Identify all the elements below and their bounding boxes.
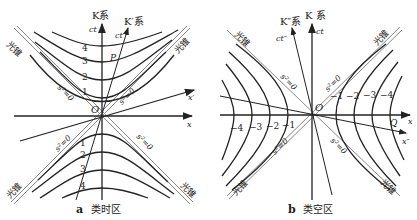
upper-curve-label-4: 4 — [82, 43, 88, 53]
x-double-prime-label: x″ — [402, 137, 410, 146]
origin-label: O — [91, 104, 99, 115]
caption-text-b: 类空区 — [303, 203, 333, 215]
null-label-lr: s²=0 — [329, 136, 349, 156]
panel-b-spacelike: K 系 K″系 ct ct″ x x″ O Q −1 −2 −3 −4 −4 −… — [220, 10, 413, 216]
upper-curve-label-1: 1 — [82, 87, 88, 97]
frame-k-label: K系 — [92, 10, 109, 21]
frame-k-label: K 系 — [305, 10, 326, 21]
caption-text-a: 类时区 — [91, 203, 121, 215]
ct-label: ct — [89, 25, 97, 34]
light-cone-label-lr: 光锥 — [379, 177, 400, 198]
caption-letter-b: b — [288, 203, 296, 216]
ct-double-prime-label: ct″ — [276, 34, 287, 43]
light-cone-label-ul: 光锥 — [233, 29, 254, 50]
right-curve-label-3: −3 — [363, 90, 377, 100]
left-curve-label-4: −4 — [230, 123, 244, 133]
x-label: x — [408, 117, 413, 126]
point-q-label: Q — [390, 118, 398, 128]
null-label-ll: s²=0 — [270, 137, 290, 157]
right-curve-label-4: −4 — [380, 90, 394, 100]
panel-a-timelike: K系 K′系 ct ct′ x x′ O P 1 2 3 4 1 2 3 4 s… — [4, 10, 199, 216]
point-p-label: P — [109, 53, 117, 63]
origin-label: O — [315, 102, 323, 113]
null-label-lr: s²=0 — [135, 132, 155, 152]
spacetime-diagram: K系 K′系 ct ct′ x x′ O P 1 2 3 4 1 2 3 4 s… — [0, 0, 417, 220]
upper-curve-label-2: 2 — [82, 72, 88, 82]
left-curve-label-3: −3 — [249, 122, 263, 132]
light-cone-label-lr: 光锥 — [179, 180, 200, 201]
frame-k-double-prime-label: K″系 — [280, 16, 301, 27]
caption-letter-a: a — [76, 203, 83, 216]
right-curve-label-1: −1 — [330, 91, 343, 101]
null-label-ur: s²=0 — [117, 87, 137, 107]
right-curve-label-2: −2 — [346, 91, 359, 101]
left-curve-label-1: −1 — [282, 120, 295, 130]
lower-curve-label-3: 3 — [80, 164, 86, 174]
light-cone-label-ul: 光锥 — [5, 39, 26, 60]
lower-curve-label-4: 4 — [80, 181, 86, 191]
upper-curve-label-3: 3 — [82, 56, 88, 66]
ct-label: ct — [316, 27, 324, 36]
ct-prime-label: ct′ — [115, 31, 125, 40]
frame-k-prime-label: K′系 — [124, 16, 144, 27]
x-label: x — [187, 120, 192, 129]
lower-curve-label-1: 1 — [80, 138, 86, 148]
light-cone-label-ur: 光锥 — [371, 27, 392, 48]
lower-curve-label-2: 2 — [80, 150, 86, 160]
x-prime-label: x′ — [188, 93, 195, 102]
left-curve-label-2: −2 — [266, 121, 279, 131]
